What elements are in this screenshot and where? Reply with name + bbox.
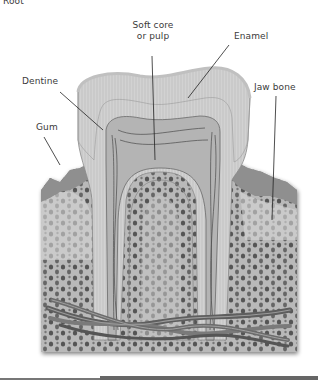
label-gum: Gum — [36, 122, 58, 133]
label-dentine: Dentine — [22, 76, 58, 87]
label-soft-core-pulp: Soft core or pulp — [123, 20, 183, 42]
tooth-illustration — [0, 0, 318, 380]
label-pulp-line2: or pulp — [123, 31, 183, 42]
tooth — [78, 68, 250, 340]
label-enamel: Enamel — [234, 31, 268, 42]
decorative-bottom-border — [0, 376, 318, 380]
label-pulp-line1: Soft core — [123, 20, 183, 31]
label-jaw-bone: Jaw bone — [254, 82, 296, 93]
